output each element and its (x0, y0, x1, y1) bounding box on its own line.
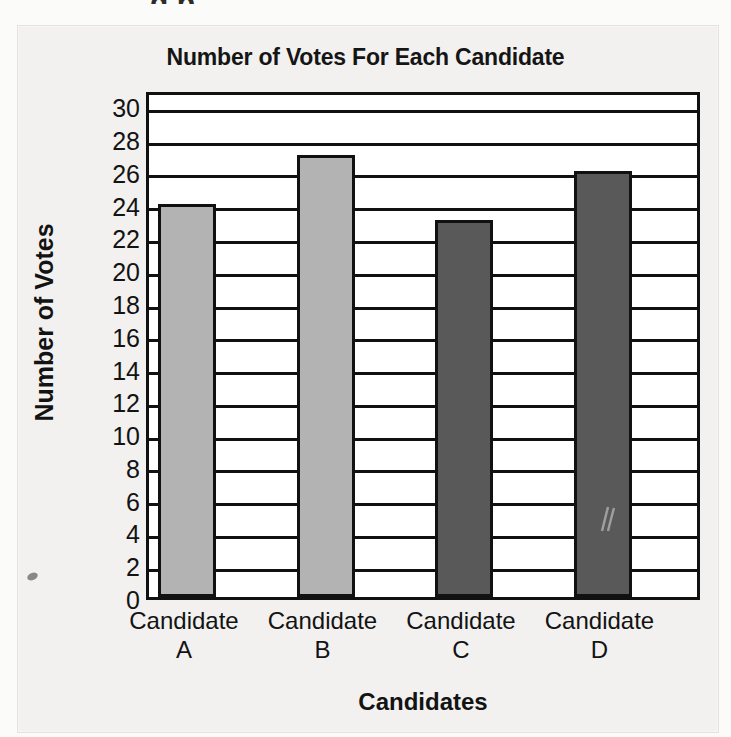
x-tick-label-line1: Candidate (129, 607, 238, 634)
y-tick-label: 10 (78, 424, 140, 449)
y-axis-title: Number of Votes (30, 183, 59, 463)
y-tick-label: 14 (78, 358, 140, 383)
y-tick-label: 4 (78, 522, 140, 547)
y-tick-label: 24 (78, 194, 140, 219)
y-axis-tick-labels: 302826242220181614121086420 (72, 92, 140, 600)
y-tick-label: 12 (78, 391, 140, 416)
y-tick-label: 26 (78, 161, 140, 186)
bar-candidate-d (574, 171, 632, 597)
gridline (149, 110, 697, 113)
y-tick-label: 18 (78, 293, 140, 318)
y-tick-label: 28 (78, 129, 140, 154)
x-axis-title: Candidates (146, 688, 700, 716)
x-tick-label-line2: A (104, 635, 264, 664)
y-tick-label: 30 (78, 96, 140, 121)
x-tick-label-line2: C (381, 635, 541, 664)
plot-area (146, 92, 700, 600)
y-tick-label: 8 (78, 456, 140, 481)
x-tick-label: CandidateB (243, 606, 403, 665)
x-tick-label-line2: D (520, 635, 680, 664)
chart-title: Number of Votes For Each Candidate (0, 44, 731, 71)
bar-candidate-c (435, 220, 493, 597)
x-axis-tick-labels: CandidateACandidateBCandidateCCandidateD (146, 606, 700, 678)
cropped-heading-fragment: g p (150, 0, 450, 4)
x-tick-label-line1: Candidate (406, 607, 515, 634)
x-tick-label-line1: Candidate (268, 607, 377, 634)
scanned-chart-page: g p Number of Votes For Each Candidate N… (0, 0, 731, 737)
plot-inner (149, 95, 697, 597)
y-tick-label: 2 (78, 555, 140, 580)
y-tick-label: 16 (78, 325, 140, 350)
gridline (149, 143, 697, 146)
x-tick-label-line2: B (243, 635, 403, 664)
x-tick-label-line1: Candidate (545, 607, 654, 634)
y-tick-label: 20 (78, 260, 140, 285)
x-tick-label: CandidateC (381, 606, 541, 665)
y-tick-label: 6 (78, 489, 140, 514)
bar-candidate-a (158, 204, 216, 597)
x-tick-label: CandidateA (104, 606, 264, 665)
scratch-artifact (599, 506, 617, 532)
x-tick-label: CandidateD (520, 606, 680, 665)
y-tick-label: 22 (78, 227, 140, 252)
bar-candidate-b (297, 155, 355, 597)
